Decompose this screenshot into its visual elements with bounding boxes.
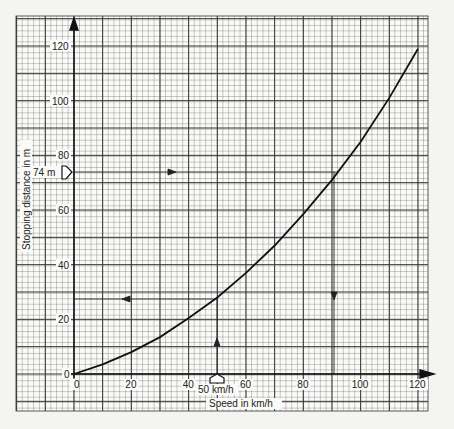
stopping-distance-chart: 020406080100120 020406080100120 74 m 50 … <box>0 0 454 429</box>
fine-grid <box>16 16 428 411</box>
x-tick-label: 0 <box>74 379 80 390</box>
y-tick-label: 0 <box>64 369 70 380</box>
x-axis-title-group: Speed in km/h <box>206 398 282 409</box>
y-marker-74m: 74 m <box>30 166 72 179</box>
y-tick-label: 120 <box>52 41 69 52</box>
y-tick-label: 80 <box>58 150 70 161</box>
x-tick-label: 80 <box>297 379 309 390</box>
y-tick-label: 20 <box>58 314 70 325</box>
y-marker-label: 74 m <box>33 167 55 178</box>
x-tick-label: 60 <box>240 379 252 390</box>
x-tick-label: 120 <box>409 379 426 390</box>
x-marker-label: 50 km/h <box>198 384 234 395</box>
x-tick-label: 20 <box>125 379 137 390</box>
y-tick-label: 40 <box>58 260 70 271</box>
x-tick-label: 100 <box>352 379 369 390</box>
y-axis-title-group: Stopping distance in m <box>20 140 32 252</box>
x-axis-title: Speed in km/h <box>209 398 273 409</box>
x-tick-label: 40 <box>183 379 195 390</box>
y-tick-label: 100 <box>52 96 69 107</box>
y-tick-label: 60 <box>58 205 70 216</box>
y-axis-title: Stopping distance in m <box>21 149 32 250</box>
